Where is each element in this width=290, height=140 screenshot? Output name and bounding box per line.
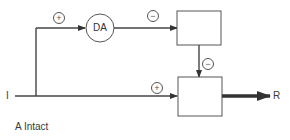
top-box [177, 11, 221, 45]
minus-sign-da-topbox: − [147, 10, 159, 22]
minus-sign-topbox-bottombox: − [202, 58, 214, 70]
output-label: R [273, 91, 280, 101]
plus-sign-input-bottombox: + [151, 82, 163, 94]
bottom-box [178, 77, 222, 116]
caption: A Intact [15, 122, 48, 132]
diagram-canvas [0, 0, 290, 140]
da-label: DA [86, 22, 114, 33]
input-label: I [6, 91, 9, 101]
plus-sign-input-da: + [53, 12, 65, 24]
